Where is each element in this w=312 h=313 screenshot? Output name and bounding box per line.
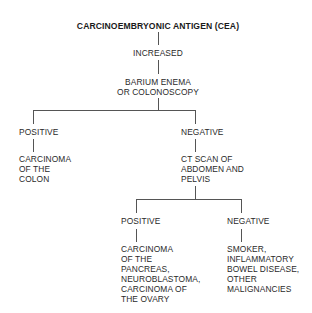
node-positive-left: POSITIVE bbox=[19, 127, 58, 137]
node-increased: INCREASED bbox=[108, 48, 208, 58]
connector-line bbox=[33, 110, 34, 124]
connector-line bbox=[158, 32, 159, 45]
connector-line bbox=[241, 199, 242, 213]
connector-line bbox=[195, 139, 196, 152]
node-negative-sub: NEGATIVE bbox=[227, 216, 270, 226]
split-line bbox=[136, 199, 242, 200]
connector-line bbox=[158, 98, 159, 110]
node-barium-enema: BARIUM ENEMA OR COLONOSCOPY bbox=[98, 77, 218, 97]
node-smoker: SMOKER, INFLAMMATORY BOWEL DISEASE, OTHE… bbox=[227, 244, 299, 294]
connector-line bbox=[241, 229, 242, 242]
connector-line bbox=[33, 139, 34, 152]
connector-line bbox=[158, 60, 159, 74]
connector-line bbox=[195, 186, 196, 199]
node-carcinoma-colon: CARCINOMA OF THE COLON bbox=[19, 154, 71, 184]
node-carcinoma-pancreas: CARCINOMA OF THE PANCREAS, NEUROBLASTOMA… bbox=[121, 244, 200, 304]
node-positive-sub: POSITIVE bbox=[121, 216, 160, 226]
connector-line bbox=[136, 229, 137, 242]
connector-line bbox=[195, 110, 196, 124]
connector-line bbox=[136, 199, 137, 213]
split-line bbox=[33, 110, 196, 111]
node-negative-right: NEGATIVE bbox=[181, 127, 224, 137]
node-title: CARCINOEMBRYONIC ANTIGEN (CEA) bbox=[60, 21, 256, 31]
node-ct-scan: CT SCAN OF ABDOMEN AND PELVIS bbox=[181, 154, 244, 184]
